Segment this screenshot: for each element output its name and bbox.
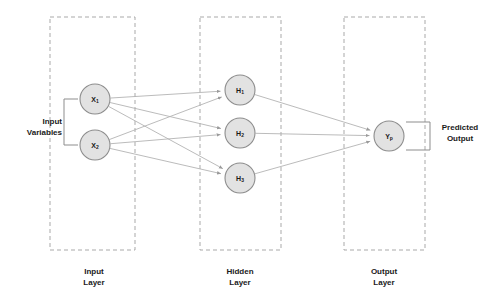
edge-x2-to-h1 [109, 97, 221, 140]
neural-network-diagram: X1X2H1H2H3Yp Input Variables Predicted O… [0, 0, 487, 302]
edge-x1-to-h2 [110, 103, 221, 129]
input-layer-caption: Input Layer [52, 266, 136, 288]
edge-h2-to-yp [255, 133, 369, 135]
predicted-output-label: Predicted Output [434, 122, 486, 144]
hidden-layer-caption: Hidden Layer [198, 266, 282, 288]
network-nodes: X1X2H1H2H3Yp [80, 75, 404, 193]
node-h2: H2 [225, 118, 255, 148]
edge-h1-to-yp [255, 95, 371, 131]
input-variables-bracket [64, 99, 78, 145]
predicted-output-bracket [406, 122, 430, 150]
node-x2: X2 [80, 130, 110, 160]
edge-x2-to-h3 [110, 148, 221, 173]
output-layer-caption: Output Layer [342, 266, 426, 288]
node-yp: Yp [374, 121, 404, 151]
node-x1: X1 [80, 84, 110, 114]
edge-x1-to-h1 [110, 91, 220, 98]
network-canvas: X1X2H1H2H3Yp [0, 0, 487, 302]
node-h3: H3 [225, 163, 255, 193]
edge-h3-to-yp [255, 141, 370, 174]
edge-x2-to-h2 [110, 135, 220, 144]
input-variables-label: Input Variables [4, 116, 62, 138]
node-h1: H1 [225, 75, 255, 105]
